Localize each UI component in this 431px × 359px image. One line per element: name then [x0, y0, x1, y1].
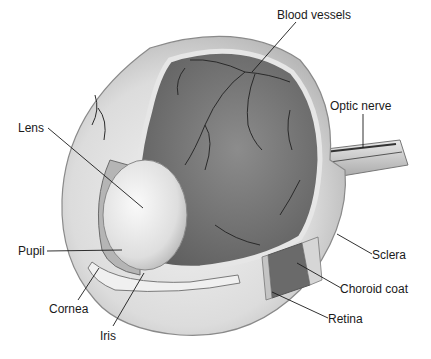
label-blood-vessels: Blood vessels [277, 8, 351, 22]
leader-line-pupil [47, 250, 122, 251]
eye-diagram: Blood vesselsOptic nerveLensPupilCorneaI… [0, 0, 431, 359]
leader-line-retina [272, 292, 328, 318]
label-choroid-coat: Choroid coat [340, 282, 408, 296]
label-pupil: Pupil [18, 244, 45, 258]
label-optic-nerve: Optic nerve [330, 99, 391, 113]
leader-line-choroid-coat [297, 263, 341, 288]
label-retina: Retina [328, 312, 363, 326]
leader-line-lens [48, 128, 143, 208]
leader-line-sclera [337, 234, 372, 254]
label-lens: Lens [18, 121, 44, 135]
label-iris: Iris [100, 329, 116, 343]
label-cornea: Cornea [49, 302, 88, 316]
label-sclera: Sclera [372, 248, 406, 262]
leader-line-blood-vessels [252, 22, 296, 72]
leader-line-cornea [78, 268, 99, 300]
leader-line-iris [113, 273, 144, 326]
